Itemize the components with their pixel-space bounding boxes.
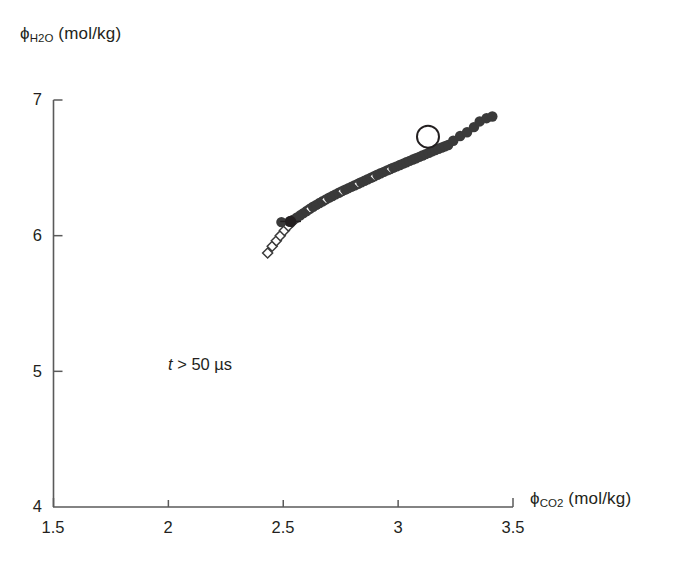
x-tick-label-1-5: 1.5	[23, 518, 83, 537]
x-axis-label-subscript: CO2	[540, 497, 564, 509]
x-tick-label-3: 3	[368, 518, 428, 537]
x-axis-label-units: (mol/kg)	[568, 489, 631, 508]
y-tick-label-4: 4	[8, 497, 42, 516]
y-axis-label: ϕH2O (mol/kg)	[20, 24, 121, 44]
marker-large-open-circle	[417, 126, 439, 148]
marker-filled-circle	[487, 111, 497, 121]
x-tick-label-3-5: 3.5	[483, 518, 543, 537]
x-tick-label-2: 2	[138, 518, 198, 537]
annotation-variable: t	[168, 355, 173, 373]
chart-figure: ϕH2O (mol/kg) ϕCO2 (mol/kg) t > 50 µs 7 …	[0, 0, 675, 573]
y-tick-label-5: 5	[8, 362, 42, 381]
y-tick-label-6: 6	[8, 226, 42, 245]
y-axis-label-units: (mol/kg)	[58, 24, 121, 43]
x-tick-label-2-5: 2.5	[253, 518, 313, 537]
data-markers	[263, 111, 498, 258]
x-axis-label-symbol: ϕ	[530, 489, 540, 508]
x-axis-label: ϕCO2 (mol/kg)	[530, 489, 631, 509]
y-axis-label-symbol: ϕ	[20, 24, 30, 43]
axes	[53, 100, 513, 507]
y-axis-label-subscript: H2O	[30, 32, 54, 44]
y-tick-label-7: 7	[8, 90, 42, 109]
plot-area	[0, 0, 675, 573]
plot-annotation: t > 50 µs	[168, 355, 232, 374]
axis-ticks	[54, 100, 514, 507]
annotation-condition: > 50 µs	[177, 355, 232, 373]
marker-filled-circle-emphasis	[285, 216, 296, 227]
